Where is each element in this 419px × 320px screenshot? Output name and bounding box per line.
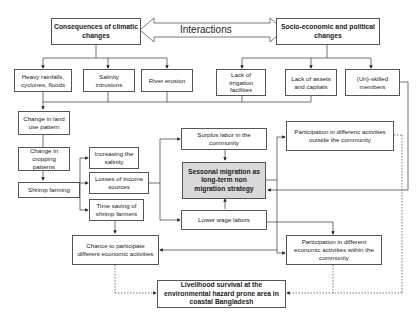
interactions-label: Interactions	[180, 24, 232, 35]
climate-effect-box: Salinity intrusions	[83, 69, 135, 92]
livelihood-survival-box: Livelihood survival at the environmental…	[157, 280, 286, 308]
surplus-labor-box: Surplus labor in the community	[181, 128, 267, 150]
income-loss-box: Losses of income sources	[89, 172, 149, 194]
land-use-box: Change in land use pattern	[18, 111, 70, 135]
lower-wage-box: Lower wage labors	[181, 210, 267, 230]
shrimp-box: Shrimp farming	[18, 182, 80, 198]
climatic-changes-box: Consequences of climatic changes	[51, 18, 141, 45]
outside-participation-box: Participation in differenc activities ou…	[286, 121, 394, 151]
climate-effect-box: Heavy rainfalls, cyclones, floods	[14, 69, 72, 92]
cropping-box: Change in cropping patterns	[18, 147, 70, 171]
time-saving-box: Time saving of shrimp farmers	[89, 199, 144, 221]
within-participation-box: Participation in different economic acti…	[286, 235, 382, 265]
socio-effect-box: Lack of assets and capitals	[285, 69, 337, 96]
core-strategy-box: Sessonal migration as long-term non migr…	[182, 162, 266, 199]
socio-economic-changes-box: Socio-economic and political changes	[276, 18, 380, 45]
socio-effect-box: Lack of irrigation facilities	[216, 69, 266, 96]
salinity-box: Increasing the salinity	[89, 147, 139, 169]
climate-effect-box: River erosion	[141, 69, 193, 92]
socio-effect-box: (Un)-skilled members	[345, 69, 400, 96]
chance-participate-box: Chance to participate different economic…	[72, 235, 159, 265]
